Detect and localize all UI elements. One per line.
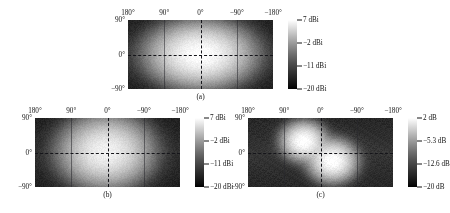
panel-a-colorbar-tick-1 (297, 43, 302, 44)
panel-c-colorbar-label-3: −20 dB (423, 183, 444, 191)
panel-a-colorbar-gradient (288, 20, 297, 89)
panel-a-ytick-0: 90° (104, 16, 125, 24)
panel-b-xtick-4: −180° (171, 107, 189, 115)
panel-b-xtick-1: 90° (66, 107, 76, 115)
panel-a-colorbar-label-2: −11 dBi (303, 62, 326, 70)
panel-b-colorbar-tick-2 (204, 164, 209, 165)
panel-a-colorbar-tick-3 (297, 89, 302, 90)
panel-b-colorbar-tick-3 (204, 187, 209, 188)
panel-c-colorbar: 2 dB −5.3 dB −12.6 dB −20 dB (408, 118, 417, 187)
panel-c-xtick-4: −180° (384, 107, 402, 115)
panel-c-ytick-1: 0° (224, 149, 245, 157)
panel-b-colorbar-tick-0 (204, 118, 209, 119)
panel-a-colorbar-label-0: 7 dBi (303, 16, 319, 24)
panel-b-colorbar-label-2: −11 dBi (210, 160, 233, 168)
panel-b-ytick-0: 90° (11, 114, 32, 122)
panel-a-xtick-1: 90° (159, 9, 169, 17)
panel-a: 180° 90° 0° −90° −180° 90° 0° −90° (a) 7… (128, 20, 286, 102)
panel-b-ytick-2: −90° (11, 183, 32, 191)
panel-c-colorbar-tick-2 (417, 164, 422, 165)
panel-c-colorbar-label-2: −12.6 dB (423, 160, 450, 168)
panel-c-colorbar-tick-1 (417, 141, 422, 142)
panel-b-colorbar-tick-1 (204, 141, 209, 142)
panel-a-xtick-2: 0° (197, 9, 203, 17)
panel-c-colorbar-tick-0 (417, 118, 422, 119)
panel-a-xtick-4: −180° (264, 9, 282, 17)
panel-c: 180° 90° 0° −90° −180° 90° 0° −90° (c) 2… (248, 118, 406, 200)
panel-b-colorbar-label-1: −2 dBi (210, 137, 230, 145)
panel-b-colorbar: 7 dBi −2 dBi −11 dBi −20 dBi (195, 118, 204, 187)
panel-b-xtick-3: −90° (137, 107, 151, 115)
panel-b-ytick-1: 0° (11, 149, 32, 157)
panel-c-plot-area (248, 118, 393, 187)
panel-a-heatmap (128, 20, 273, 89)
panel-c-xtick-3: −90° (350, 107, 364, 115)
panel-a-plot-area (128, 20, 273, 89)
panel-b-xtick-2: 0° (104, 107, 110, 115)
panel-a-ytick-1: 0° (104, 51, 125, 59)
panel-c-ytick-0: 90° (224, 114, 245, 122)
panel-c-heatmap (248, 118, 393, 187)
panel-c-colorbar-tick-3 (417, 187, 422, 188)
panel-a-caption: (a) (196, 92, 204, 101)
panel-c-xtick-2: 0° (317, 107, 323, 115)
panel-b-heatmap (35, 118, 180, 187)
panel-a-colorbar-label-1: −2 dBi (303, 39, 323, 47)
panel-a-colorbar-label-3: −20 dBi (303, 85, 326, 93)
panel-c-colorbar-gradient (408, 118, 417, 187)
panel-a-colorbar-tick-0 (297, 20, 302, 21)
panel-c-ytick-2: −90° (224, 183, 245, 191)
panel-c-colorbar-label-1: −5.3 dB (423, 137, 446, 145)
panel-b-colorbar-gradient (195, 118, 204, 187)
panel-b-plot-area (35, 118, 180, 187)
panel-a-colorbar: 7 dBi −2 dBi −11 dBi −20 dBi (288, 20, 297, 89)
panel-c-xtick-1: 90° (279, 107, 289, 115)
panel-a-colorbar-tick-2 (297, 66, 302, 67)
panel-c-colorbar-label-0: 2 dB (423, 114, 437, 122)
panel-a-ytick-2: −90° (104, 85, 125, 93)
panel-c-caption: (c) (316, 190, 324, 199)
panel-a-xtick-3: −90° (230, 9, 244, 17)
panel-b: 180° 90° 0° −90° −180° 90° 0° −90° (b) 7… (35, 118, 193, 200)
panel-b-caption: (b) (103, 190, 112, 199)
